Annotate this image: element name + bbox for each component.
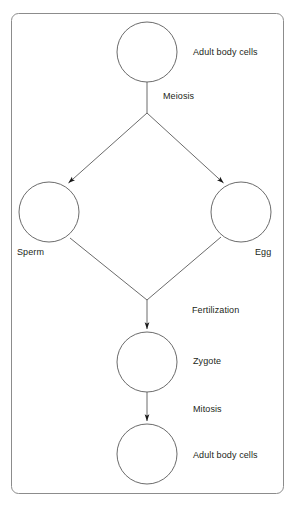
label-adult-body-cells-bottom: Adult body cells [193,450,258,461]
cell-egg [211,182,271,242]
label-fertilization: Fertilization [192,305,239,316]
diagram-canvas [0,0,295,506]
label-zygote: Zygote [193,356,221,367]
cell-adult-body-cells-top [117,22,177,82]
cell-adult-body-cells-bottom [117,424,177,484]
label-meiosis: Meiosis [163,91,194,102]
label-sperm: Sperm [17,247,44,258]
cell-zygote [117,332,177,392]
diagram-frame [12,14,284,494]
life-cycle-diagram: Adult body cells Sperm Egg Zygote Adult … [0,0,295,506]
label-egg: Egg [255,247,271,258]
label-mitosis: Mitosis [193,404,222,415]
cell-sperm [19,182,79,242]
label-adult-body-cells-top: Adult body cells [193,47,258,58]
